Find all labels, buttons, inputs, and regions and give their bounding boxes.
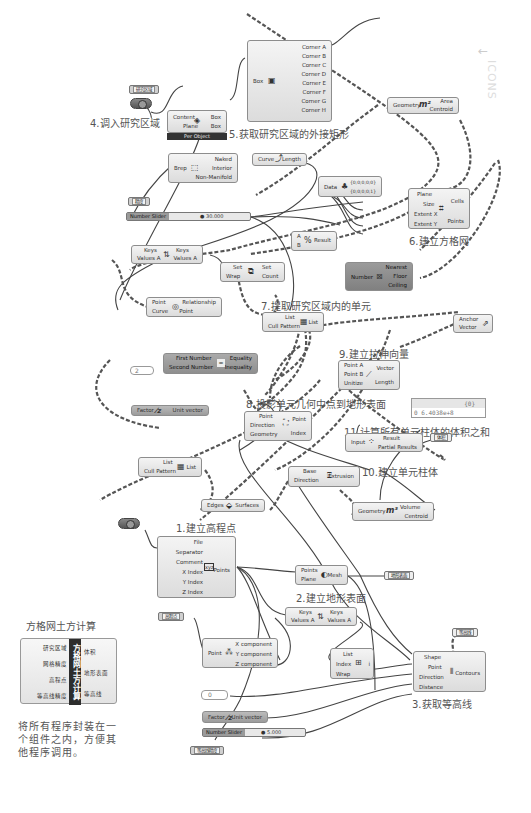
contours-output: Contours (455, 669, 480, 678)
geometry-param-icon[interactable] (130, 98, 152, 109)
unit-z-node-2[interactable]: Factor ⁄z Unit vector (202, 711, 268, 723)
geometry-input: Geometry (393, 101, 420, 110)
number-input: Number (351, 273, 373, 282)
list-output: List (186, 463, 196, 472)
a-input: A (297, 232, 301, 241)
sort-list-node[interactable]: Keys Values A ⇅ Keys Values A (131, 245, 203, 264)
param-terrain-surface[interactable]: 地形表面 (384, 571, 414, 580)
values-a-output: Values A (328, 616, 351, 625)
param-elevation-points[interactable]: 高程点 (158, 612, 184, 621)
volume-node[interactable]: Geometry m³ Volume Centroid (352, 502, 434, 521)
mass-addition-node[interactable]: Input ⁘ Result Partial Results (345, 433, 423, 452)
data-tree-node[interactable]: Data ♣ {0;0;0;0;0} {0;0;0;0;1} (318, 176, 382, 197)
contour-node[interactable]: Shape Point Direction Distance ⫴ Contour… (413, 651, 486, 692)
cull-icon: ▦ (177, 462, 185, 472)
branch-1-output: {0;0;0;0;1} (350, 187, 376, 196)
param-grid-precision[interactable]: 精度 (128, 197, 150, 206)
param-contour-precision[interactable]: 等高线精度 (190, 746, 224, 755)
file-path-param-icon[interactable] (118, 518, 140, 529)
contour-icon: ⫴ (450, 667, 453, 677)
step-label-5: 5.获取研究区域的外接矩形 (229, 126, 349, 141)
cull-pattern-node[interactable]: List Cull Pattern ▦ List (262, 312, 324, 332)
bounding-box-icon: ◈ (194, 116, 200, 126)
vector-2pt-node[interactable]: Point A Point B Unitize ⟋ Vector Length (338, 360, 400, 390)
length-output: Length (282, 155, 301, 164)
cluster-input-elevation-points: 高程点 (29, 676, 67, 684)
corner-g-output: Corner G (301, 97, 326, 106)
slider-value[interactable]: ● 30.000 (200, 213, 223, 220)
points-output: Points (447, 217, 464, 226)
slider-value[interactable]: ● 5.000 (261, 729, 281, 736)
cull-pattern-node-2[interactable]: List Cull Pattern ▦ List (138, 457, 202, 477)
equality-node[interactable]: First Number Second Number = Equality In… (163, 353, 258, 374)
rectangular-grid-node[interactable]: Plane Size Extent X Extent Y ⌗ Cells Poi… (408, 188, 470, 229)
step-label-1: 1.建立高程点 (176, 520, 236, 535)
length-node[interactable]: Curve ⤴ Length (252, 153, 307, 166)
index-input: Index (336, 660, 351, 669)
box-input: Box (253, 77, 263, 86)
extrusion-node[interactable]: Base Direction ⍐ Extrusion (288, 466, 360, 487)
create-set-node[interactable]: Set Wrap ⧉ Set Count (220, 262, 285, 282)
project-point-node[interactable]: Point Direction Geometry ⛶ Point Index (244, 411, 312, 441)
cluster-node[interactable]: 研究区域 网格精度 高程点 等高线精度 方格网土方计算 体积 地形表面 等高线 (20, 638, 117, 704)
param-volume[interactable]: 体积 (430, 433, 452, 442)
brep-surfaces-icon: ⬙ (226, 501, 232, 511)
y-index-input: Y Index (183, 578, 203, 587)
slider-name: Number Slider (127, 213, 169, 220)
naked-output: Naked (215, 155, 232, 164)
result-output: Result (383, 434, 417, 443)
plane-input: Plane (301, 575, 316, 584)
index-value-panel[interactable]: 0 (201, 690, 228, 700)
round-node[interactable]: Number ⊠ Nearest Floor Ceiling (345, 262, 413, 291)
list-item-node[interactable]: List Index Wrap ⊞ i (330, 648, 374, 679)
area-node[interactable]: Geometry m² Area Centroid (387, 97, 459, 114)
per-object-mode[interactable]: Per Object (167, 133, 227, 140)
point-a-input: Point A (344, 361, 363, 370)
volume-output: Volume (400, 503, 428, 512)
sort-list-node-2[interactable]: Keys Values A ⇅ Keys Values A (285, 607, 357, 626)
grid-size-slider[interactable]: Number Slider ● 30.000 (126, 212, 251, 221)
param-contours[interactable]: 等高线 (452, 628, 478, 637)
deconstruct-point-node[interactable]: Point ⁂ X component Y component Z compon… (202, 638, 278, 668)
branch-0-output: {0;0;0;0;0} (350, 178, 376, 187)
unit-z-node[interactable]: Factor ⁄z Unit vector (131, 405, 209, 416)
step-label-2: 2.建立地形表面 (296, 590, 366, 605)
step-label-8: 8.投影单元几何中点到地形表面 (246, 396, 386, 411)
project-icon: ⛶ (283, 418, 289, 428)
deconstruct-box-node[interactable]: Box ▣ Corner A Corner B Corner C Corner … (247, 40, 332, 122)
distance-input: Distance (419, 683, 443, 692)
set-output: Set (262, 263, 279, 272)
point-in-curve-icon: ◎ (172, 302, 179, 312)
point-in-curve-node[interactable]: Point Curve ◎ Relationship Point (146, 297, 222, 317)
index-output: Index (291, 429, 306, 438)
division-node[interactable]: A B % Result (291, 231, 337, 251)
contour-distance-slider[interactable]: Number Slider ● 5.000 (202, 728, 306, 737)
icons-watermark: ICONS (485, 60, 498, 100)
cluster-description: 将所有程序封装在一个组件之内，方便其他程序调用。 (18, 720, 118, 759)
param-study-area[interactable]: 研究区域 (129, 85, 159, 94)
relationship-output: Relationship (182, 298, 216, 307)
corner-d-output: Corner D (302, 70, 326, 79)
surfaces-output: Surfaces (235, 501, 259, 510)
ceiling-output: Ceiling (388, 281, 407, 290)
brep-edges-node[interactable]: Brep ⬚ Naked Interior Non-Manifold (168, 153, 238, 183)
read-file-node[interactable]: File Separator Comment X Index Y Index Z… (157, 536, 236, 598)
point-input: Point (428, 663, 442, 672)
list-input: List (163, 458, 173, 467)
cluster-input-grid-precision: 网格精度 (29, 660, 67, 668)
step-label-7: 7.提取研究区域内的单元 (261, 298, 371, 313)
corner-b-output: Corner B (302, 52, 326, 61)
equality-output: Equality (230, 354, 252, 363)
volume-icon: m³ (386, 506, 398, 516)
step-label-9: 9.建立拉伸向量 (339, 346, 409, 361)
delaunay-mesh-node[interactable]: Points Plane ◐ Mesh (295, 565, 348, 585)
deconstruct-brep-node[interactable]: Edges ⬙ Surfaces (201, 499, 265, 512)
points-input: Points (301, 566, 318, 575)
vector-display-node[interactable]: Anchor Vector ⇗ (453, 314, 493, 333)
mass-addition-icon: ⁘ (368, 437, 375, 447)
shape-input: Shape (424, 653, 441, 662)
box-output-2: Box (211, 122, 221, 131)
volume-result-panel[interactable]: {0} 0 6.4038e+8 (411, 398, 486, 418)
bounding-box-node[interactable]: Content Plane ◈ Box Box (167, 110, 227, 133)
equality-value-panel[interactable]: 2 (130, 366, 154, 375)
